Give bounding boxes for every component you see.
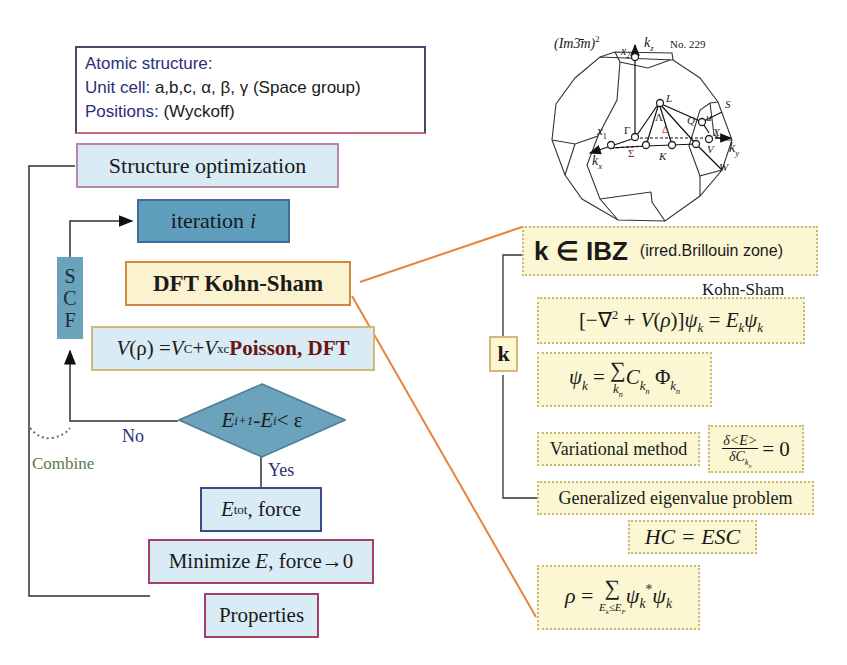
convergence-diamond: Ei+1-Ei < ε [178,383,346,458]
ks-equation: [−∇2 + V(ρ)]ψk = Ekψk [579,308,763,333]
dft-kohn-sham-label: DFT Kohn-Sham [153,271,323,297]
combine-label: Combine [32,454,94,474]
yes-label: Yes [268,460,294,481]
minimize-box: Minimize E, force→0 [148,539,374,584]
iteration-label: iteration [171,208,244,234]
atomic-structure-box: Atomic structure: Unit cell: a,b,c, α, β… [75,46,426,134]
convergence-condition: Ei+1-Ei < ε [178,383,346,458]
properties-label: Properties [219,603,304,628]
x-label: X [713,126,720,138]
hc-esc-box: HC = ESC [628,520,757,554]
hc-esc-equation: HC = ESC [645,524,741,550]
delta-label: Δ [662,123,669,135]
conv-e1: E [221,408,234,433]
kz-label: kz [644,35,654,51]
v-label: V [707,143,714,155]
scf-letter-c: C [63,287,76,309]
atomic-structure-title: Atomic structure: [85,52,416,76]
variational-method-box: Variational method [537,432,700,466]
kx-sub: x [598,161,602,171]
ks-equation-box: [−∇2 + V(ρ)]ψk = Ekψk [−∇² + V(ρ)]ψ_k = … [537,297,805,344]
ky-sub: y [735,148,739,158]
properties-box: Properties [204,593,319,638]
unit-cell-value: a,b,c, α, β, γ (Space group) [150,78,360,97]
space-group-sup: 2 [595,34,599,44]
etot-rest: , force [247,497,301,522]
generalized-eigen-label: Generalized eigenvalue problem [559,488,793,509]
minimize-pre: Minimize [169,549,251,574]
l-label: L [666,92,672,104]
k-ibz-label: k ∈ IBZ [534,236,628,267]
gamma-label: Γ [624,124,630,136]
expansion-box: ψk = ∑knCkn Φkn ψ_k = Σ_{k_n} C_{k_n} Φ_… [537,352,712,407]
variational-denominator: δCkn [729,449,751,466]
u-label: u [706,111,712,123]
structure-optimization-label: Structure optimization [109,153,306,179]
x2-label: x2 [621,44,630,59]
ky-label: ky [729,140,739,156]
space-group-number: No. 229 [670,38,705,50]
conv-rhs: < ε [277,408,303,433]
space-group-label: (Im3̄m)2 [554,36,600,52]
positions-label: Positions: [85,102,159,121]
unit-cell-label: Unit cell: [85,78,150,97]
iteration-box: iteration i [137,199,290,243]
scf-letter-s: S [64,265,75,287]
density-box: ρ = ∑Ek≤EFψk*ψk ρ = Σ_{E_k≤E_F} ψ_k* ψ_k [537,565,700,630]
scf-letter-f: F [64,309,75,331]
variational-numerator: δ<E> [722,433,758,449]
variational-den-text: δC [729,449,745,464]
orange-connector-top [360,227,522,282]
w-label: W [719,161,728,173]
iteration-variable: i [250,208,256,234]
brillouin-zone-drawing [552,52,732,221]
variational-method-label: Variational method [550,439,687,460]
x1-label: x1 [597,123,607,139]
potential-v: V [116,336,129,361]
potential-vc: V [171,336,184,361]
density-equation: ρ = ∑Ek≤EFψk*ψk [565,580,672,615]
lambda-label: Λ [655,111,663,123]
etot-e: E [221,497,234,522]
variational-fraction: δ<E> δCkn [722,433,758,466]
q-label: Q [687,114,695,126]
potential-rho: (ρ) = [129,336,171,361]
space-group-symbol: (Im3̄m) [554,36,595,51]
potential-vxc: V [204,336,217,361]
potential-box: V(ρ) = VC+Vxc Poisson, DFT [91,326,375,371]
k-label: k [497,341,509,367]
conv-e2: -E [253,408,273,433]
minimize-e: E [255,549,268,574]
expansion-equation: ψk = ∑knCkn Φkn [569,362,680,397]
scf-to-iteration-arrow [70,221,132,258]
k-point-label: K [659,150,666,162]
variational-rhs: = 0 [762,437,790,462]
dft-kohn-sham-box: DFT Kohn-Sham [125,261,351,306]
s-label: S [725,98,731,110]
k-label-box: k [489,336,518,372]
x1-sub: 1 [603,132,607,141]
sigma-label: Σ [628,147,634,159]
combine-dotted-curve [30,428,70,438]
structure-optimization-box: Structure optimization [76,143,339,188]
potential-plus: + [192,336,204,361]
etot-force-box: Etot, force [200,487,322,532]
x2-sub: 2 [626,51,630,60]
k-ibz-note: (irred.Brillouin zone) [640,242,783,260]
kx-label: kx [592,153,602,169]
generalized-eigen-box: Generalized eigenvalue problem [537,481,814,515]
no-label: No [122,426,144,447]
variational-equation-box: δ<E> δCkn = 0 [708,425,804,473]
kz-sub: z [650,43,653,53]
optimization-loop-line [29,166,150,596]
scf-box: S C F [57,257,83,339]
positions-value: (Wyckoff) [159,102,235,121]
minimize-post: , force→0 [268,549,353,574]
k-ibz-box: k ∈ IBZ (irred.Brillouin zone) [522,226,818,276]
potential-methods: Poisson, DFT [229,336,349,361]
